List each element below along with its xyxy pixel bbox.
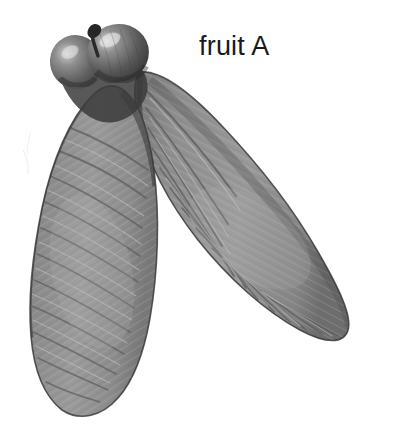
samara-pair-illustration [0, 0, 398, 440]
fruit-label: fruit A [199, 33, 269, 60]
fruit-image-canvas: fruit A [0, 0, 398, 440]
